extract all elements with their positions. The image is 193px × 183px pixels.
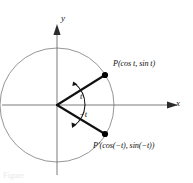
figure-graphics — [0, 0, 193, 183]
y-axis-label: y — [61, 14, 65, 23]
y-axis-arrowhead — [53, 24, 60, 35]
point-p-prime-label-prefix: P′ — [93, 141, 100, 150]
point-p-label-body: (cos t, sin t) — [118, 59, 155, 68]
angle-arc-negative-t-arrowhead — [72, 123, 77, 128]
figure-caption: Figure — [3, 172, 24, 180]
point-p-prime-dot — [102, 131, 108, 137]
angle-label-negative-t: −t — [79, 110, 87, 119]
angle-label-t: t — [80, 92, 82, 101]
point-p-label: P(cos t, sin t) — [113, 60, 155, 68]
point-p-dot — [102, 72, 108, 78]
x-axis-label: x — [176, 99, 180, 108]
point-p-prime-label-body: (cos(−t), sin(−t)) — [100, 141, 155, 150]
unit-circle-figure: y x t −t P(cos t, sin t) P′(cos(−t), sin… — [0, 0, 193, 183]
point-p-prime-label: P′(cos(−t), sin(−t)) — [93, 142, 154, 150]
